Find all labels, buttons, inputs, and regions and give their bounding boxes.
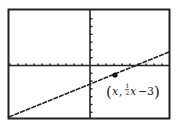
frac-denominator: 2 [126,89,130,96]
point-label: ( x , 1 2 x − 3 ) [106,82,160,101]
label-minus: − [138,85,147,98]
label-x: x [112,85,119,98]
label-comma: , [119,85,123,98]
label-x2: x [130,85,137,98]
close-paren: ) [154,83,160,101]
x-axis [9,64,169,66]
graph-window: ( x , 1 2 x − 3 ) [0,0,178,129]
highlighted-point [112,72,117,77]
y-axis [90,10,93,118]
label-const: 3 [147,85,154,98]
frac-numerator: 1 [126,82,130,89]
open-paren: ( [106,83,112,101]
